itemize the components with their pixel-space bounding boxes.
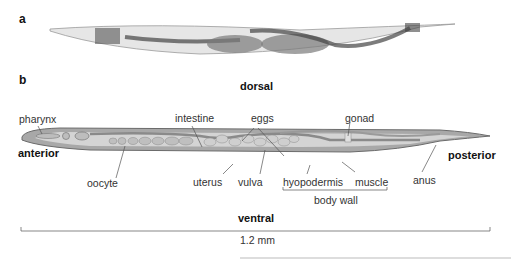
muscle-label: muscle xyxy=(355,176,388,188)
ventral-label: ventral xyxy=(238,212,274,224)
schematic-worm xyxy=(22,128,490,152)
uterus-label: uterus xyxy=(193,176,222,188)
eggs-label: eggs xyxy=(251,112,274,124)
gonad-label: gonad xyxy=(345,112,374,124)
intestine-label: intestine xyxy=(175,112,214,124)
vulva-label: vulva xyxy=(238,176,263,188)
panel-b-letter: b xyxy=(19,73,26,87)
hyopodermis-label: hyopodermis xyxy=(283,176,343,188)
pharynx-label: pharynx xyxy=(19,113,56,125)
anus-label: anus xyxy=(413,174,436,186)
scale-bar-label: 1.2 mm xyxy=(240,234,275,246)
anterior-label: anterior xyxy=(18,147,59,159)
oocyte-label: oocyte xyxy=(87,177,118,189)
dorsal-label: dorsal xyxy=(240,80,273,92)
micrograph-worm xyxy=(50,23,455,54)
body-wall-label: body wall xyxy=(314,194,358,206)
posterior-label: posterior xyxy=(448,149,496,161)
